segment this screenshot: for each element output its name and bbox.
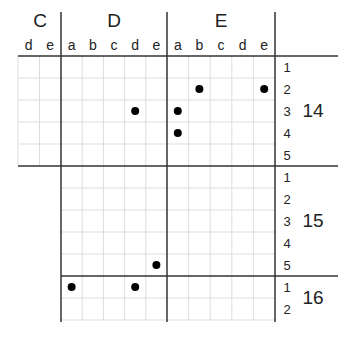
column-label: e	[260, 37, 268, 53]
row-label: 2	[283, 82, 290, 97]
row-block-label-16: 16	[302, 287, 323, 309]
column-label: b	[89, 37, 97, 53]
dot-marker	[195, 85, 203, 93]
column-group-label-d: D	[107, 10, 121, 32]
dot-marker	[260, 85, 268, 93]
column-group-label-e: E	[215, 10, 228, 32]
row-label: 4	[283, 236, 290, 251]
column-label: c	[111, 37, 118, 53]
dot-marker	[174, 129, 182, 137]
dot-marker	[152, 261, 160, 269]
column-label: d	[25, 37, 33, 53]
column-group-label-c: C	[33, 10, 47, 32]
column-label: b	[195, 37, 203, 53]
dot-marker	[131, 107, 139, 115]
row-label: 2	[283, 302, 290, 317]
row-block-label-15: 15	[302, 210, 323, 232]
row-label: 1	[283, 280, 290, 295]
column-label: d	[239, 37, 247, 53]
row-label: 3	[283, 104, 290, 119]
grid-diagram: CdeDabcdeEabcde123451412345151216	[0, 0, 339, 341]
row-label: 5	[283, 258, 290, 273]
column-label: d	[131, 37, 139, 53]
column-label: a	[174, 37, 182, 53]
dot-marker	[174, 107, 182, 115]
row-label: 4	[283, 126, 290, 141]
column-label: a	[68, 37, 76, 53]
row-label: 3	[283, 214, 290, 229]
column-label: e	[152, 37, 160, 53]
row-label: 2	[283, 192, 290, 207]
row-label: 1	[283, 60, 290, 75]
column-label: c	[218, 37, 225, 53]
row-label: 1	[283, 170, 290, 185]
column-label: e	[46, 37, 54, 53]
dot-marker	[68, 283, 76, 291]
row-block-label-14: 14	[302, 100, 323, 122]
row-label: 5	[283, 148, 290, 163]
dot-marker	[131, 283, 139, 291]
